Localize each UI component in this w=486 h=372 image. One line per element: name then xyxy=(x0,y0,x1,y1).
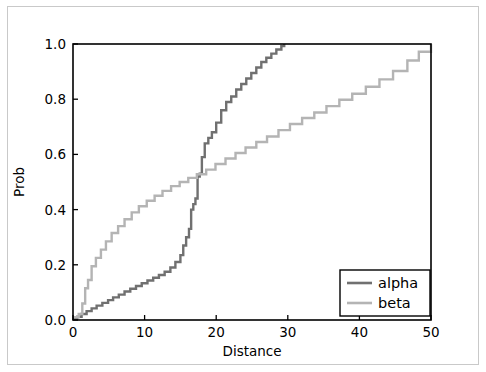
x-tick-label: 0 xyxy=(69,324,78,340)
x-tick-label: 10 xyxy=(136,324,153,340)
y-tick-label: 0.2 xyxy=(45,257,66,273)
x-tick-label: 30 xyxy=(279,324,296,340)
y-tick-label: 1.0 xyxy=(45,36,66,52)
chart-figure: 01020304050 0.00.20.40.60.81.0 Distance … xyxy=(0,0,486,372)
x-axis-title: Distance xyxy=(222,343,281,359)
x-tick-label: 50 xyxy=(422,324,439,340)
legend-label-alpha: alpha xyxy=(378,275,418,291)
legend: alpha beta xyxy=(340,270,430,316)
y-tick-label: 0.6 xyxy=(45,146,66,162)
ecdf-step-plot: 01020304050 0.00.20.40.60.81.0 Distance … xyxy=(0,0,486,372)
y-axis-title: Prob xyxy=(11,167,27,197)
x-tick-label: 40 xyxy=(351,324,368,340)
x-tick-label: 20 xyxy=(208,324,225,340)
y-tick-label: 0.8 xyxy=(45,91,66,107)
y-tick-label: 0.4 xyxy=(45,202,66,218)
legend-label-beta: beta xyxy=(378,295,411,311)
y-tick-label: 0.0 xyxy=(45,312,66,328)
